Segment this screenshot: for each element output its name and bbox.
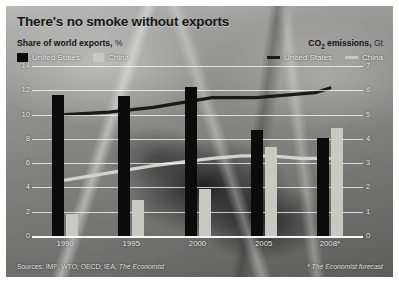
y-axis-tick-left: 2 bbox=[16, 207, 30, 216]
y-axis-tick-right: 3 bbox=[366, 158, 380, 167]
gridline bbox=[32, 90, 363, 91]
bar-china bbox=[199, 189, 211, 236]
bar-united-states bbox=[52, 95, 64, 236]
right-axis-caption-pre: CO bbox=[308, 38, 321, 48]
y-axis-tick-right: 4 bbox=[366, 134, 380, 143]
y-axis-tick-right: 7 bbox=[366, 61, 380, 70]
y-axis-tick-left: 6 bbox=[16, 158, 30, 167]
gridline bbox=[32, 66, 363, 67]
chart-frame: There's no smoke without exports Share o… bbox=[6, 6, 393, 277]
x-axis-tick-label: 2005 bbox=[255, 239, 272, 248]
x-axis-tick-label: 2008* bbox=[320, 239, 340, 248]
line-china bbox=[65, 156, 330, 180]
legend-item-label: United States bbox=[284, 53, 332, 62]
gridline bbox=[32, 139, 363, 140]
right-axis-caption: CO2 emissions, Gt bbox=[308, 38, 383, 50]
legend-left-axis: United StatesChina bbox=[17, 53, 129, 62]
x-axis-tick-label: 1995 bbox=[123, 239, 140, 248]
right-axis-unit: Gt bbox=[374, 38, 383, 48]
right-axis-caption-post: emissions, bbox=[325, 38, 372, 48]
left-axis-unit: % bbox=[115, 38, 123, 48]
legend-swatch-line-icon bbox=[345, 56, 358, 59]
y-axis-tick-left: 14 bbox=[16, 61, 30, 70]
bar-united-states bbox=[118, 96, 130, 236]
legend-item-label: United States bbox=[32, 53, 80, 62]
plot-area: 147126105846342210019901995200020052008* bbox=[32, 66, 363, 236]
y-axis-tick-right: 5 bbox=[366, 110, 380, 119]
sources-note: Sources: IMF; WTO; OECD; IEA; The Econom… bbox=[17, 263, 164, 270]
bar-china bbox=[331, 128, 343, 236]
gridline bbox=[32, 236, 363, 238]
chart-title: There's no smoke without exports bbox=[17, 14, 229, 29]
legend-item: United States bbox=[267, 53, 332, 62]
left-axis-caption-text: Share of world exports, bbox=[17, 38, 113, 48]
legend-item-label: China bbox=[108, 53, 129, 62]
y-axis-tick-left: 12 bbox=[16, 85, 30, 94]
gridline bbox=[32, 212, 363, 213]
sources-publication: The Economist bbox=[119, 263, 164, 270]
x-axis-tick-label: 2000 bbox=[189, 239, 206, 248]
line-layer bbox=[32, 66, 363, 236]
y-axis-tick-left: 10 bbox=[16, 110, 30, 119]
gridline bbox=[32, 163, 363, 164]
bar-united-states bbox=[185, 87, 197, 236]
legend-swatch-box-icon bbox=[93, 53, 104, 62]
gridline bbox=[32, 115, 363, 116]
legend-item: China bbox=[93, 53, 129, 62]
line-united-states bbox=[65, 88, 330, 115]
bar-united-states bbox=[317, 138, 329, 236]
gridline bbox=[32, 187, 363, 188]
bar-china bbox=[265, 147, 277, 236]
x-axis-tick-label: 1990 bbox=[56, 239, 73, 248]
bar-china bbox=[132, 200, 144, 236]
left-axis-caption: Share of world exports, % bbox=[17, 38, 123, 48]
bar-china bbox=[66, 214, 78, 236]
y-axis-tick-left: 4 bbox=[16, 182, 30, 191]
bar-united-states bbox=[251, 130, 263, 236]
y-axis-tick-right: 0 bbox=[366, 231, 380, 240]
y-axis-tick-left: 8 bbox=[16, 134, 30, 143]
y-axis-tick-right: 6 bbox=[366, 85, 380, 94]
sources-text: Sources: IMF; WTO; OECD; IEA; bbox=[17, 263, 117, 270]
y-axis-tick-left: 0 bbox=[16, 231, 30, 240]
co2-lines-svg bbox=[32, 66, 363, 236]
forecast-note: * The Economist forecast bbox=[307, 263, 383, 270]
y-axis-tick-right: 2 bbox=[366, 182, 380, 191]
legend-swatch-line-icon bbox=[267, 56, 280, 59]
y-axis-tick-right: 1 bbox=[366, 207, 380, 216]
